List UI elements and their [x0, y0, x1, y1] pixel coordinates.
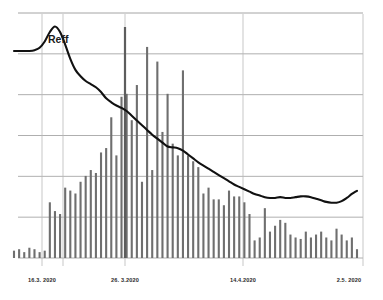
bar [233, 196, 235, 258]
bar [33, 249, 35, 258]
bar [254, 240, 256, 258]
outlier-bar [124, 27, 126, 258]
bar [228, 191, 230, 258]
bar [90, 170, 92, 258]
bar [13, 251, 15, 258]
bar [335, 229, 337, 258]
bar [39, 252, 41, 258]
bar [74, 194, 76, 259]
chart-canvas [0, 0, 383, 300]
bar [59, 214, 61, 258]
reff-epidemic-curve-chart: Reff 16.3. 202026. 3.202014.4.20202.5. 2… [0, 0, 383, 300]
bar [115, 155, 117, 258]
bar [207, 188, 209, 258]
bar [325, 237, 327, 258]
bar [356, 249, 358, 258]
bar [64, 188, 66, 258]
bar [243, 202, 245, 258]
bar [95, 173, 97, 258]
bar [167, 94, 169, 258]
bar [300, 239, 302, 258]
bar [341, 235, 343, 258]
bar [156, 62, 158, 258]
bar [248, 214, 250, 258]
bar [110, 117, 112, 258]
bar [274, 226, 276, 258]
reff-series-label: Reff [48, 33, 68, 45]
bar [28, 248, 30, 258]
bar [264, 208, 266, 258]
x-axis-tick-label: 26. 3.2020 [111, 277, 139, 283]
bar [269, 232, 271, 258]
bar [23, 252, 25, 258]
bar [295, 237, 297, 258]
bar [315, 235, 317, 258]
bar [49, 202, 51, 258]
bar [80, 182, 82, 258]
bar [54, 211, 56, 258]
bar [192, 161, 194, 258]
bar [202, 194, 204, 259]
bar [330, 240, 332, 258]
bar [197, 167, 199, 258]
bar [18, 249, 20, 258]
bar [136, 85, 138, 258]
bar [69, 191, 71, 258]
bar [279, 220, 281, 258]
outlier-spike-bar [124, 27, 126, 258]
bar [320, 232, 322, 258]
bar [100, 152, 102, 258]
bar [141, 182, 143, 258]
bar [161, 132, 163, 258]
bar [120, 97, 122, 258]
x-axis-tick-label: 16.3. 2020 [28, 277, 56, 283]
x-axis-tick-label: 2.5. 2020 [337, 277, 362, 283]
bar [44, 251, 46, 258]
bar [259, 237, 261, 258]
bar [223, 205, 225, 258]
bar [289, 235, 291, 258]
bar [172, 144, 174, 258]
bar [85, 176, 87, 258]
bar [131, 120, 133, 258]
bar [284, 223, 286, 258]
bar [151, 170, 153, 258]
bar [351, 237, 353, 258]
bar [218, 199, 220, 258]
bar [213, 199, 215, 258]
bar [346, 240, 348, 258]
bar [177, 155, 179, 258]
bar [310, 237, 312, 258]
bar [187, 155, 189, 258]
bar [305, 232, 307, 258]
bar [238, 196, 240, 258]
x-axis-tick-label: 14.4.2020 [230, 277, 256, 283]
bar [146, 47, 148, 258]
bar [182, 70, 184, 258]
bar [105, 148, 107, 258]
